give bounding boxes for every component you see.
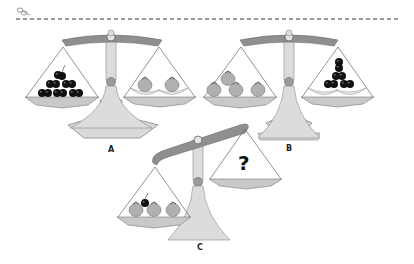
scale-b	[203, 30, 374, 140]
scale-a	[25, 30, 196, 138]
cherry-c	[141, 193, 149, 207]
tomatoes-a	[138, 77, 179, 92]
tomatoes-c	[129, 202, 180, 217]
scale-label-a: A	[108, 145, 115, 154]
cherries-b	[324, 58, 354, 88]
bananas-b	[308, 88, 366, 95]
scale-label-c: C	[197, 243, 203, 252]
scale-c	[117, 124, 282, 240]
worksheet: A B	[0, 0, 414, 264]
tomatoes-b	[207, 71, 265, 97]
question-mark: ?	[238, 151, 250, 175]
bananas-a	[130, 88, 188, 95]
cherries-a	[38, 65, 83, 97]
scale-label-b: B	[286, 144, 292, 153]
scissors-icon	[17, 8, 30, 15]
